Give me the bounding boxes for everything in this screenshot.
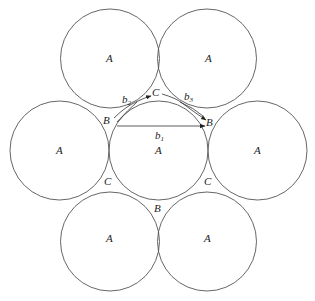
label-b-right: B (206, 116, 213, 128)
label-a-bottom-left: A (105, 232, 113, 244)
label-a-top-right: A (204, 52, 212, 64)
label-b-left: B (103, 114, 110, 126)
label-c-bottom-left: C (104, 175, 112, 187)
label-b1: b1 (155, 129, 164, 143)
label-b3: b3 (184, 90, 194, 104)
label-b-bottom: B (154, 202, 161, 214)
label-a-mid-left: A (55, 144, 63, 156)
label-c-bottom-right: C (204, 175, 212, 187)
circle-packing-diagram: A A A A A A A B B B C C C b1 b2 b3 (0, 0, 315, 301)
label-a-mid-right: A (253, 144, 261, 156)
label-a-mid-center: A (154, 144, 162, 156)
label-b2: b2 (122, 93, 132, 107)
label-a-bottom-right: A (203, 232, 211, 244)
label-c-top: C (152, 86, 160, 98)
label-a-top-left: A (105, 52, 113, 64)
